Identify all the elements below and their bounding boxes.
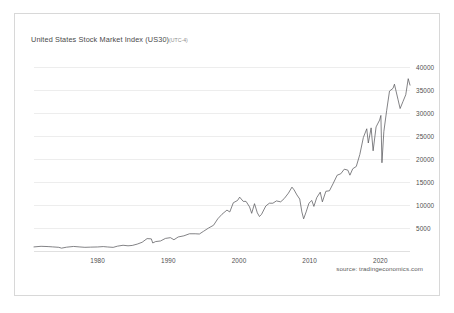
y-tick-label: 15000 [416,179,434,186]
chart-screenshot: United States Stock Market Index (US30)(… [0,0,454,313]
y-tick-label: 35000 [416,87,434,94]
y-tick-label: 5000 [416,225,431,232]
x-tick-label: 1980 [90,257,105,264]
chart-title-text: United States Stock Market Index (US30) [31,35,169,44]
chart-card: United States Stock Market Index (US30)(… [14,13,440,296]
x-tick-label: 1990 [161,257,176,264]
y-tick-label: 30000 [416,110,434,117]
series-line-us30 [34,58,410,251]
y-tick-label: 25000 [416,133,434,140]
chart-title: United States Stock Market Index (US30)(… [31,35,188,44]
x-tick-label: 2010 [302,257,317,264]
x-tick-label: 2000 [232,257,247,264]
source-attribution: source: tradingeconomics.com [336,265,423,272]
y-tick-label: 20000 [416,156,434,163]
y-tick-label: 40000 [416,64,434,71]
plot-area: 500010000150002000025000300003500040000 … [34,58,410,251]
y-tick-label: 10000 [416,202,434,209]
x-axis-line [34,251,410,252]
x-tick-label: 2020 [373,257,388,264]
chart-title-timezone: (UTC-4) [169,37,188,43]
